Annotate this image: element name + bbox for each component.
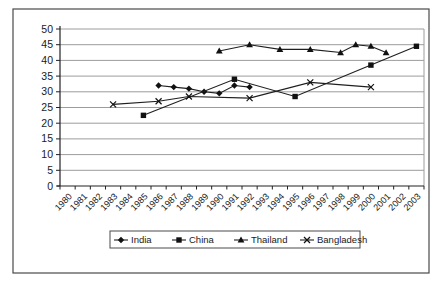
y-tick-label: 35 — [41, 70, 53, 82]
y-tick-label: 30 — [41, 85, 53, 97]
y-tick-label: 15 — [41, 132, 53, 144]
line-chart: 0510152025303540455019801981198219831984… — [0, 0, 442, 293]
y-tick-label: 50 — [41, 23, 53, 35]
y-tick-label: 20 — [41, 117, 53, 129]
y-tick-label: 45 — [41, 38, 53, 50]
y-tick-label: 25 — [41, 101, 53, 113]
y-tick-label: 10 — [41, 148, 53, 160]
legend-label: India — [131, 234, 152, 245]
chart-legend: IndiaChinaThailandBangladesh — [110, 231, 367, 248]
legend-label: Thailand — [251, 234, 287, 245]
chart-figure: 0510152025303540455019801981198219831984… — [0, 0, 442, 293]
y-tick-label: 5 — [47, 164, 53, 176]
y-tick-label: 40 — [41, 54, 53, 66]
y-tick-label: 0 — [47, 180, 53, 192]
legend-label: Bangladesh — [317, 234, 367, 245]
legend-label: China — [189, 234, 215, 245]
